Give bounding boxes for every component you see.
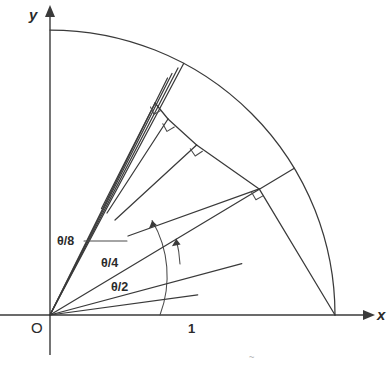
geometry-diagram-canvas xyxy=(0,0,392,365)
footer-fragment: ~ xyxy=(249,352,254,362)
perpendicular-segment-3 xyxy=(168,119,197,145)
x-axis-label: x xyxy=(377,306,385,323)
quarter-arc-group xyxy=(172,239,181,264)
origin-label: O xyxy=(31,319,43,336)
angle-label-theta-half: θ/2 xyxy=(111,280,128,294)
y-axis-arrow xyxy=(45,5,55,17)
angle-label-theta-eighth: θ/8 xyxy=(57,234,74,248)
angle-label-theta-quarter: θ/4 xyxy=(101,256,118,270)
outer-circle-arc xyxy=(50,30,335,315)
x-tick-label-1: 1 xyxy=(188,321,195,336)
chord-lower-close xyxy=(102,103,156,209)
y-axis-label: y xyxy=(29,6,37,23)
perpendicular-segment-2 xyxy=(197,145,260,189)
ray-theta-quarter xyxy=(50,264,242,315)
x-axis-arrow xyxy=(363,310,375,320)
perpendicular-segment-1 xyxy=(259,189,335,315)
perpendicular-chain-group xyxy=(102,103,336,315)
ray-theta-eighth xyxy=(50,295,198,315)
quarter-arc-arrowhead xyxy=(172,239,181,246)
figure-root: y x O 1 θ/2 θ/4 θ/8 ~ xyxy=(0,0,392,365)
outer-arc-group xyxy=(50,30,335,315)
